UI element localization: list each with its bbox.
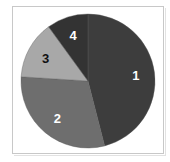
pie-chart: 1234 — [0, 0, 170, 162]
pie-label-1: 1 — [132, 68, 139, 83]
pie-label-2: 2 — [54, 111, 61, 126]
pie-label-4: 4 — [69, 28, 77, 43]
pie-label-3: 3 — [42, 51, 49, 66]
